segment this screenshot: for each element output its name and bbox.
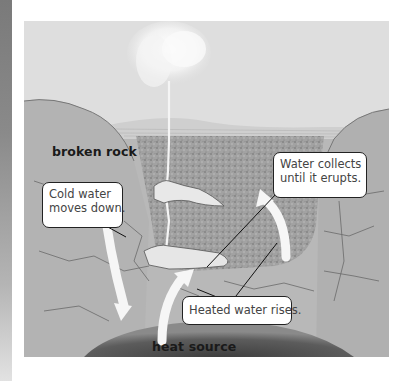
heated-water-callout: Heated water rises. bbox=[182, 296, 292, 325]
cold-water-callout: Cold water moves down. bbox=[42, 182, 123, 228]
heat-source-label: heat source bbox=[152, 339, 236, 354]
cold-water-callout-line-2: moves down. bbox=[49, 201, 116, 215]
broken-rock-label: broken rock bbox=[52, 144, 137, 159]
water-collects-callout-line-1: Water collects bbox=[280, 157, 360, 171]
water-collects-callout: Water collects until it erupts. bbox=[273, 152, 367, 198]
geyser-diagram: broken rock Cold water moves down. Water… bbox=[24, 21, 389, 357]
page-edge-strip bbox=[0, 0, 12, 381]
water-collects-callout-line-2: until it erupts. bbox=[280, 171, 360, 185]
cold-water-callout-line-1: Cold water bbox=[49, 187, 116, 201]
